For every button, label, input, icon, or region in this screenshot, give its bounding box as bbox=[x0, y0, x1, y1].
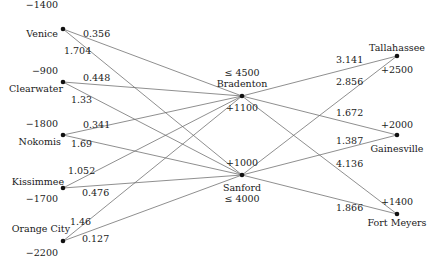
node-dot bbox=[395, 212, 400, 217]
cost-sanford-gainesville: 1.387 bbox=[336, 135, 363, 146]
node-capacity: ≤ 4500 bbox=[224, 67, 259, 78]
cost-sanford-tallahassee: 2.856 bbox=[336, 76, 363, 87]
node-clearwater: −900 Clearwater bbox=[9, 65, 65, 94]
node-dot bbox=[61, 27, 66, 32]
cost-clearwater-bradenton: 0.448 bbox=[83, 72, 110, 83]
cost-kissimmee-bradenton: 1.052 bbox=[68, 165, 95, 176]
edge-sanford-fortmeyers bbox=[242, 175, 397, 214]
node-orange-city: Orange City −2200 bbox=[12, 223, 71, 258]
node-value: +1100 bbox=[226, 102, 258, 113]
cost-nokomis-sanford: 1.69 bbox=[71, 138, 92, 149]
node-value: +1000 bbox=[226, 157, 258, 168]
edge-orangecity-sanford bbox=[63, 175, 242, 241]
node-value: +1400 bbox=[381, 196, 413, 207]
node-venice: −1400 Venice bbox=[25, 0, 65, 39]
cost-sanford-fortmeyers: 1.866 bbox=[336, 202, 363, 213]
node-dot bbox=[61, 133, 66, 138]
node-fort-meyers: +1400 Fort Meyers bbox=[368, 196, 427, 228]
edge-sanford-tallahassee bbox=[242, 56, 397, 175]
node-capacity: ≤ 4000 bbox=[224, 193, 259, 204]
cost-bradenton-tallahassee: 3.141 bbox=[336, 54, 363, 65]
node-value: −1400 bbox=[26, 0, 58, 10]
node-dot bbox=[395, 54, 400, 59]
edge-cost-labels: 0.356 1.704 0.448 1.33 0.341 1.69 1.052 … bbox=[64, 28, 363, 244]
node-nokomis: −1800 Nokomis bbox=[19, 118, 66, 147]
node-label: Nokomis bbox=[19, 136, 62, 147]
node-value: −1700 bbox=[26, 193, 58, 204]
node-dot bbox=[240, 94, 245, 99]
node-kissimmee: Kissimmee −1700 bbox=[12, 176, 65, 204]
node-label: Kissimmee bbox=[12, 176, 65, 187]
cost-nokomis-bradenton: 0.341 bbox=[83, 119, 110, 130]
node-dot bbox=[61, 239, 66, 244]
node-label: Fort Meyers bbox=[368, 217, 427, 228]
node-label: Gainesville bbox=[370, 143, 423, 154]
node-sanford: +1000 Sanford ≤ 4000 bbox=[223, 157, 261, 204]
node-label: Bradenton bbox=[217, 78, 268, 89]
edge-bradenton-tallahassee bbox=[242, 56, 397, 96]
cost-bradenton-fortmeyers: 4.136 bbox=[336, 158, 363, 169]
cost-kissimmee-sanford: 0.476 bbox=[82, 187, 109, 198]
cost-orangecity-sanford: 0.127 bbox=[82, 233, 109, 244]
node-value: −1800 bbox=[26, 118, 58, 129]
edge-venice-bradenton bbox=[63, 29, 242, 96]
cost-venice-bradenton: 0.356 bbox=[83, 28, 110, 39]
node-value: −2200 bbox=[26, 247, 58, 258]
node-label: Orange City bbox=[12, 223, 71, 234]
node-tallahassee: Tallahassee +2500 bbox=[369, 42, 425, 75]
node-label: Venice bbox=[25, 28, 58, 39]
node-dot bbox=[395, 133, 400, 138]
node-dot bbox=[240, 173, 245, 178]
cost-orangecity-bradenton: 1.46 bbox=[70, 216, 91, 227]
node-value: −900 bbox=[32, 65, 58, 76]
cost-clearwater-sanford: 1.33 bbox=[71, 94, 92, 105]
node-label: Clearwater bbox=[9, 83, 63, 94]
node-value: +2000 bbox=[381, 119, 413, 130]
edge-sanford-gainesville bbox=[242, 135, 397, 175]
node-label: Sanford bbox=[223, 182, 261, 193]
node-value: +2500 bbox=[381, 64, 413, 75]
network-diagram: 0.356 1.704 0.448 1.33 0.341 1.69 1.052 … bbox=[0, 0, 443, 271]
cost-bradenton-gainesville: 1.672 bbox=[336, 107, 363, 118]
cost-venice-sanford: 1.704 bbox=[64, 45, 91, 56]
node-label: Tallahassee bbox=[369, 42, 425, 53]
node-gainesville: +2000 Gainesville bbox=[370, 119, 423, 154]
node-bradenton: ≤ 4500 Bradenton +1100 bbox=[217, 67, 268, 113]
